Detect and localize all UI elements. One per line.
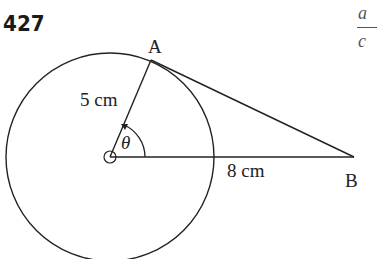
- label-distance-ob: 8 cm: [227, 161, 264, 180]
- label-angle-theta: θ: [121, 133, 130, 152]
- tangent-ab: [151, 60, 354, 157]
- fraction-numerator-fragment: a: [358, 4, 378, 22]
- label-radius: 5 cm: [80, 90, 117, 109]
- problem-number: 427: [3, 12, 45, 36]
- label-point-a: A: [148, 37, 162, 56]
- label-point-b: B: [345, 171, 358, 190]
- fraction-bar: [357, 27, 377, 28]
- fraction-denominator-fragment: c: [358, 32, 378, 50]
